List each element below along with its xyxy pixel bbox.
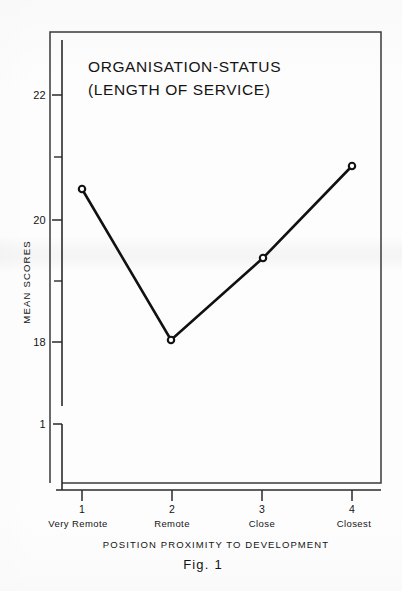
data-point-2: [168, 337, 174, 343]
x-tick-label-4: 4: [349, 503, 355, 515]
figure-container: ORGANISATION-STATUS (LENGTH OF SERVICE) …: [0, 0, 402, 591]
data-point-1: [79, 186, 85, 192]
chart-frame: [50, 32, 381, 483]
x-category-label-closest: Closest: [337, 518, 371, 529]
chart-canvas: ORGANISATION-STATUS (LENGTH OF SERVICE) …: [0, 0, 402, 591]
y-axis: [52, 40, 62, 490]
x-tick-label-3: 3: [259, 503, 265, 515]
data-point-3: [260, 255, 266, 261]
data-series-mean-score: [79, 163, 355, 343]
x-tick-label-1: 1: [79, 503, 85, 515]
x-axis-title: POSITION PROXIMITY TO DEVELOPMENT: [103, 539, 329, 550]
data-point-4: [349, 163, 355, 169]
chart-subtitle: (LENGTH OF SERVICE): [88, 81, 271, 98]
chart-title: ORGANISATION-STATUS: [88, 58, 281, 75]
x-axis: [56, 490, 381, 501]
x-category-label-remote: Remote: [154, 518, 190, 529]
y-tick-label-22: 22: [33, 89, 46, 101]
y-tick-label-break: 1: [40, 418, 46, 430]
y-tick-label-18: 18: [33, 336, 46, 348]
x-category-label-close: Close: [249, 518, 275, 529]
y-tick-label-20: 20: [33, 214, 46, 226]
x-tick-label-2: 2: [169, 503, 175, 515]
figure-caption: Fig. 1: [183, 557, 223, 572]
x-category-label-very-remote: Very Remote: [48, 518, 107, 529]
y-axis-title: MEAN SCORES: [21, 240, 32, 323]
series-line: [82, 166, 352, 340]
